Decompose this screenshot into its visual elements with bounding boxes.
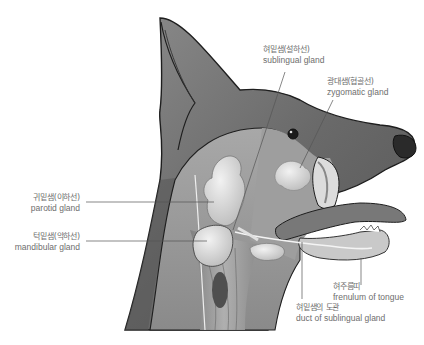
label-mandibular-gland: 턱밑샘(악하선) mandibular gland xyxy=(0,232,80,252)
label-en: parotid gland xyxy=(20,203,80,213)
label-en: frenulum of tongue xyxy=(333,292,404,302)
label-sublingual-gland: 혀밑샘(설하선) sublingual gland xyxy=(263,45,324,65)
label-zygomatic-gland: 광대샘(협골선) zygomatic gland xyxy=(327,77,388,97)
eye xyxy=(288,129,298,139)
mandibular-gland xyxy=(193,225,233,266)
label-ko: 혀밑샘(설하선) xyxy=(263,45,324,55)
label-en: zygomatic gland xyxy=(327,87,388,97)
label-ko: 광대샘(협골선) xyxy=(327,77,388,87)
label-ko: 귀밑샘(이하선) xyxy=(20,193,80,203)
label-duct-of-sublingual-gland: 혀밑샘의 도관 duct of sublingual gland xyxy=(296,303,385,323)
label-en: duct of sublingual gland xyxy=(296,313,385,323)
label-parotid-gland: 귀밑샘(이하선) parotid gland xyxy=(20,193,80,213)
label-frenulum-of-tongue: 혀주름띠 frenulum of tongue xyxy=(333,282,404,302)
label-ko: 혀밑샘의 도관 xyxy=(296,303,385,313)
label-ko: 혀주름띠 xyxy=(333,282,404,292)
label-ko: 턱밑샘(악하선) xyxy=(0,232,80,242)
label-en: sublingual gland xyxy=(263,55,324,65)
label-en: mandibular gland xyxy=(0,242,80,252)
